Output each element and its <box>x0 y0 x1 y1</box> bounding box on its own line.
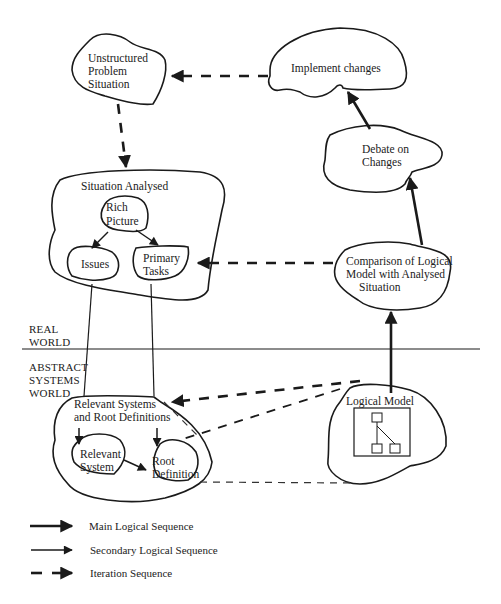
rich-picture-line1: Rich <box>106 200 139 214</box>
relevant-systems-line1: Relevant Systems <box>74 398 170 411</box>
edge-comparison-to-debate <box>410 178 422 245</box>
unstructured-label-line1: Unstructured <box>88 52 148 65</box>
situation-label: Situation Analysed <box>81 180 168 193</box>
relevant-systems-label: Relevant Systems and Root Definitions <box>74 398 170 424</box>
comparison-line3: Situation <box>346 281 453 294</box>
tree-edge-right <box>377 426 395 444</box>
tree-right-node <box>390 444 400 453</box>
real-world-line1: REAL <box>29 323 70 336</box>
comparison-label: Comparison of Logical Model with Analyse… <box>346 255 453 294</box>
primary-tasks-label: Primary Tasks <box>143 252 180 278</box>
rich-picture-label: Rich Picture <box>106 200 139 228</box>
edge-debate-to-implement <box>348 92 370 129</box>
relevant-system-line1: Relevant <box>80 448 121 461</box>
implement-label: Implement changes <box>291 62 381 75</box>
relevant-system-line2: System <box>80 461 121 474</box>
relevant-systems-line2: and Root Definitions <box>74 411 170 424</box>
issues-label: Issues <box>81 258 109 271</box>
abstract-world-line3: WORLD <box>29 387 88 400</box>
comparison-line1: Comparison of Logical <box>346 255 453 268</box>
real-world-line2: WORLD <box>29 336 70 349</box>
legend-iteration-label: Iteration Sequence <box>90 567 172 579</box>
comparison-line2: Model with Analysed <box>346 268 453 281</box>
edge-relevant-to-root <box>124 460 146 470</box>
diagram-canvas <box>0 0 501 604</box>
projection-line-lower <box>200 482 354 483</box>
primary-tasks-down-line <box>151 284 154 396</box>
primary-tasks-line2: Tasks <box>143 265 180 278</box>
projection-line-upper <box>180 389 340 440</box>
unstructured-label: Unstructured Problem Situation <box>88 52 148 91</box>
legend-secondary-label: Secondary Logical Sequence <box>90 544 218 556</box>
logical-model-label: Logical Model <box>346 395 414 408</box>
unstructured-label-line3: Situation <box>88 78 148 91</box>
abstract-world-label: ABSTRACT SYSTEMS WORLD <box>29 361 88 400</box>
root-definition-label: Root Definition <box>152 455 199 481</box>
primary-tasks-line1: Primary <box>143 252 180 265</box>
debate-label-line1: Debate on <box>362 143 409 156</box>
debate-label-line2: Changes <box>362 156 409 169</box>
rich-picture-line2: Picture <box>106 214 139 228</box>
abstract-world-line1: ABSTRACT <box>29 361 88 374</box>
root-definition-line2: Definition <box>152 468 199 481</box>
edge-unstructured-to-situation <box>118 104 126 167</box>
abstract-world-line2: SYSTEMS <box>29 374 88 387</box>
unstructured-label-line2: Problem <box>88 65 148 78</box>
root-definition-line1: Root <box>152 455 199 468</box>
real-world-label: REAL WORLD <box>29 323 70 349</box>
relevant-system-label: Relevant System <box>80 448 121 474</box>
debate-label: Debate on Changes <box>362 143 409 169</box>
legend-main-label: Main Logical Sequence <box>89 520 193 532</box>
edge-rich-to-primary <box>136 230 158 245</box>
tree-left-node <box>372 444 382 453</box>
tree-root-node <box>372 413 382 422</box>
edge-rich-to-issues <box>92 232 108 248</box>
